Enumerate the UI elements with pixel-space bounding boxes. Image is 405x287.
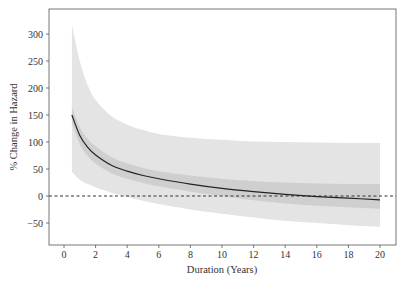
svg-text:200: 200 (28, 83, 43, 94)
x-axis-label: Duration (Years) (187, 264, 258, 276)
svg-text:2: 2 (93, 249, 98, 260)
svg-text:16: 16 (312, 249, 322, 260)
svg-text:300: 300 (28, 29, 43, 40)
svg-text:50: 50 (33, 164, 43, 175)
svg-text:14: 14 (280, 249, 290, 260)
svg-text:4: 4 (125, 249, 130, 260)
svg-text:−50: −50 (27, 218, 43, 229)
svg-text:8: 8 (188, 249, 193, 260)
y-axis-label: % Change in Hazard (8, 83, 19, 171)
svg-text:12: 12 (249, 249, 259, 260)
svg-text:0: 0 (62, 249, 67, 260)
svg-text:10: 10 (217, 249, 227, 260)
x-axis-ticks: 02468101214161820 (62, 245, 386, 260)
svg-text:250: 250 (28, 56, 43, 67)
svg-text:0: 0 (38, 191, 43, 202)
y-axis-ticks: −50050100150200250300 (27, 29, 49, 229)
svg-text:18: 18 (343, 249, 353, 260)
hazard-chart: 02468101214161820 −50050100150200250300 … (0, 0, 405, 287)
svg-text:6: 6 (156, 249, 161, 260)
svg-text:100: 100 (28, 137, 43, 148)
svg-text:150: 150 (28, 110, 43, 121)
svg-text:20: 20 (375, 249, 385, 260)
